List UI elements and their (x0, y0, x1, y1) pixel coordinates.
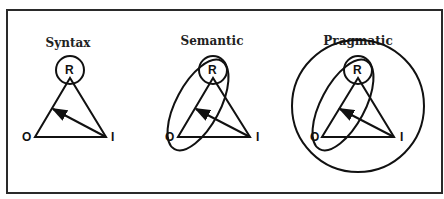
label-r: R (208, 63, 217, 77)
label-o: O (165, 130, 174, 144)
label-r: R (353, 63, 362, 77)
semiotic-triangle (322, 78, 394, 137)
label-o: O (22, 130, 31, 144)
semiotic-triangle (35, 78, 106, 137)
label-i: I (256, 130, 259, 144)
label-i: I (400, 130, 403, 144)
pragmatic-diagram (292, 40, 424, 172)
label-r: R (65, 63, 74, 77)
label-i: I (111, 130, 114, 144)
semiotic-triangle (178, 78, 250, 137)
semiotic-triangles-diagram: R O I R O I R O I (0, 0, 444, 199)
label-o: O (310, 130, 319, 144)
